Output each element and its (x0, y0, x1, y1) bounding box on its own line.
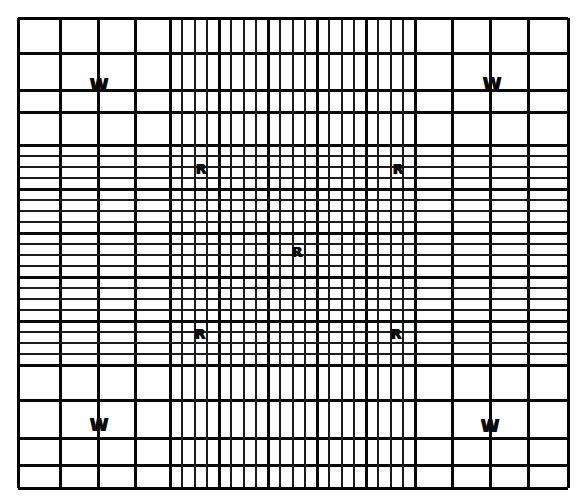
fine-horizontal-line-15 (18, 309, 568, 311)
fine-vertical-line-8 (267, 18, 270, 488)
fine-vertical-line-12 (316, 18, 319, 488)
fine-horizontal-line-6 (18, 210, 568, 212)
fine-horizontal-line-7 (18, 221, 568, 223)
frame-top-edge (18, 17, 568, 20)
rbc-top-right-label: R (393, 162, 403, 176)
fine-horizontal-line-13 (18, 287, 568, 289)
fine-vertical-line-4 (218, 18, 221, 488)
wbc-bottom-right-label: W (481, 418, 499, 435)
fine-vertical-line-16 (365, 18, 368, 488)
frame-right-edge (567, 18, 570, 488)
rbc-top-left-label: R (196, 162, 206, 176)
fine-vertical-line-15 (353, 18, 355, 488)
fine-horizontal-line-2 (18, 166, 568, 168)
wbc-top-left-label: W (90, 77, 108, 94)
fine-horizontal-line-12 (18, 276, 568, 279)
fine-horizontal-line-3 (18, 177, 568, 179)
fine-vertical-line-17 (377, 18, 379, 488)
fine-horizontal-line-1 (18, 155, 568, 157)
fine-horizontal-line-8 (18, 232, 568, 235)
fine-horizontal-line-18 (18, 342, 568, 344)
fine-vertical-line-19 (402, 18, 404, 488)
fine-horizontal-line-19 (18, 353, 568, 355)
rbc-bottom-left-label: R (195, 327, 205, 341)
fine-horizontal-line-17 (18, 331, 568, 333)
fine-vertical-line-9 (279, 18, 281, 488)
fine-horizontal-line-14 (18, 298, 568, 300)
fine-vertical-line-6 (243, 18, 245, 488)
fine-vertical-line-2 (194, 18, 196, 488)
wbc-top-right-label: W (483, 76, 501, 93)
fine-vertical-line-5 (230, 18, 232, 488)
fine-horizontal-line-16 (18, 320, 568, 323)
fine-vertical-line-3 (206, 18, 208, 488)
frame-left-edge (17, 18, 20, 488)
fine-vertical-line-13 (328, 18, 330, 488)
rbc-center-label: R (292, 245, 302, 259)
hemocytometer-figure: WWWWRRRRR (0, 0, 584, 503)
wbc-bottom-left-label: W (90, 417, 108, 434)
fine-horizontal-line-5 (18, 199, 568, 201)
fine-vertical-line-14 (341, 18, 343, 488)
fine-vertical-line-7 (255, 18, 257, 488)
rbc-bottom-right-label: R (391, 327, 401, 341)
fine-vertical-line-11 (304, 18, 306, 488)
fine-horizontal-line-4 (18, 188, 568, 191)
fine-horizontal-line-11 (18, 265, 568, 267)
fine-vertical-line-1 (181, 18, 183, 488)
frame-bottom-edge (18, 487, 568, 490)
fine-vertical-line-18 (390, 18, 392, 488)
